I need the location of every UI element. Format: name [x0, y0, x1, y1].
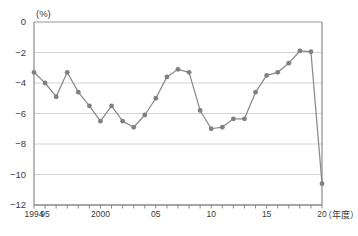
x-axis-tick-label: 95 [30, 210, 60, 219]
data-point [297, 49, 302, 54]
x-axis-tick-label: 20 [307, 210, 337, 219]
x-axis-tick-label: 2000 [85, 210, 115, 219]
x-axis-tick-label: 15 [252, 210, 282, 219]
data-point [120, 119, 125, 124]
data-point [253, 90, 258, 95]
data-point [242, 116, 247, 121]
gridlines [34, 53, 322, 206]
y-axis-tick-label: 0 [0, 17, 26, 27]
data-point [309, 49, 314, 54]
data-point [320, 181, 325, 186]
data-point-markers [32, 49, 325, 186]
y-axis-tick-label: −4 [0, 78, 26, 88]
chart-container: (%) （年度） 0−2−4−6−8−10−12 199495200005101… [0, 0, 358, 236]
data-point [176, 67, 181, 72]
data-point [87, 103, 92, 108]
data-point [98, 119, 103, 124]
data-point [54, 94, 59, 99]
y-axis-tick-label: −10 [0, 170, 26, 180]
y-axis-tick-label: −8 [0, 139, 26, 149]
data-point [220, 125, 225, 130]
x-axis-tick-label: 10 [196, 210, 226, 219]
data-point [275, 70, 280, 75]
y-axis-tick-label: −12 [0, 200, 26, 210]
data-point [43, 81, 48, 86]
data-point [109, 103, 114, 108]
data-point [198, 108, 203, 113]
data-point [231, 116, 236, 121]
data-point [76, 90, 81, 95]
data-point [142, 113, 147, 118]
line-chart-plot [0, 0, 358, 236]
y-axis-tick-label: −2 [0, 48, 26, 58]
data-point [153, 96, 158, 101]
data-point [32, 70, 37, 75]
y-axis-tick-label: −6 [0, 109, 26, 119]
data-point [165, 75, 170, 80]
data-point [187, 70, 192, 75]
data-point [209, 126, 214, 131]
x-axis-tick-label: 05 [141, 210, 171, 219]
data-point [131, 125, 136, 130]
data-point [264, 73, 269, 78]
data-point [65, 70, 70, 75]
data-point [286, 61, 291, 66]
